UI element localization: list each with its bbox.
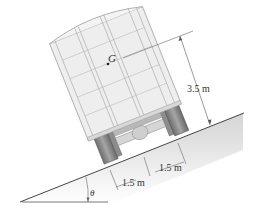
angle-label: θ bbox=[90, 189, 94, 198]
height-dimension-label: 3.5 m bbox=[187, 84, 210, 94]
center-of-gravity-label: G bbox=[108, 53, 116, 64]
trailer bbox=[47, 0, 191, 166]
height-dimension bbox=[179, 36, 212, 125]
half-width-left-label: 1.5 m bbox=[122, 178, 145, 188]
half-width-right-label: 1.5 m bbox=[159, 163, 182, 173]
